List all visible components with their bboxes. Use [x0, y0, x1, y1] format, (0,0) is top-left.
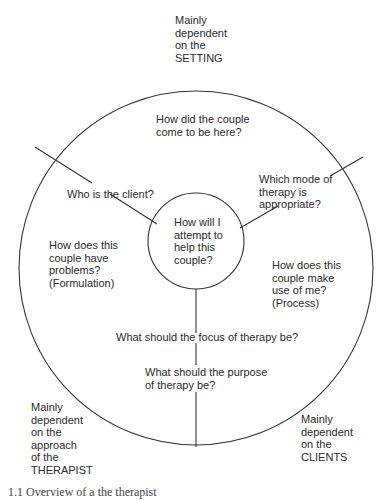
- center-question: How will I attempt to help this couple?: [174, 216, 223, 266]
- label-clients: Mainly dependent on the CLIENTS: [301, 413, 353, 463]
- question-focus: What should the focus of therapy be?: [116, 331, 298, 344]
- divider-line-right: [330, 157, 363, 176]
- figure-caption: 1.1 Overview of a the therapist: [8, 485, 157, 500]
- label-therapist: Mainly dependent on the approach of the …: [31, 401, 93, 476]
- question-how-came-here: How did the couple come to be here?: [156, 113, 250, 138]
- question-which-mode: Which mode of therapy is appropriate?: [259, 173, 332, 211]
- question-purpose: What should the purpose of therapy be?: [145, 366, 267, 391]
- question-who-is-client: Who is the client?: [67, 188, 154, 201]
- question-process: How does this couple make use of me? (Pr…: [272, 259, 341, 309]
- label-setting: Mainly dependent on the SETTING: [175, 14, 227, 64]
- question-formulation: How does this couple have problems? (For…: [49, 239, 118, 289]
